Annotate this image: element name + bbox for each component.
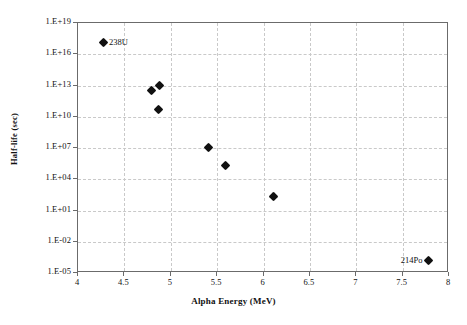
x-axis-tick xyxy=(355,272,356,276)
y-axis-tick-label: 1.E+13 xyxy=(15,80,71,89)
x-axis-tick-label: 5.5 xyxy=(196,277,236,287)
gridline-vertical xyxy=(171,23,172,271)
y-axis-tick xyxy=(73,85,77,86)
y-axis-tick xyxy=(73,22,77,23)
y-axis-tick-label: 1.E+07 xyxy=(15,142,71,151)
x-axis-tick-label: 7.5 xyxy=(382,277,422,287)
gridline-vertical xyxy=(310,23,311,271)
x-axis-title: Alpha Energy (MeV) xyxy=(0,296,467,306)
x-axis-tick xyxy=(402,272,403,276)
x-axis-tick-label: 8 xyxy=(428,277,467,287)
y-axis-tick-label: 1.E+04 xyxy=(15,173,71,182)
gridline-horizontal xyxy=(78,148,447,149)
gridline-vertical xyxy=(264,23,265,271)
y-axis-tick xyxy=(73,241,77,242)
y-axis-tick-label: 1.E-02 xyxy=(15,236,71,245)
alpha-decay-scatter-chart: 238U214Po 1.E+191.E+161.E+131.E+101.E+07… xyxy=(0,0,467,325)
gridline-horizontal xyxy=(78,211,447,212)
gridline-vertical xyxy=(403,23,404,271)
x-axis-tick xyxy=(170,272,171,276)
y-axis-tick xyxy=(73,147,77,148)
gridline-vertical xyxy=(124,23,125,271)
x-axis-tick xyxy=(448,272,449,276)
gridline-horizontal xyxy=(78,54,447,55)
data-point-marker xyxy=(98,37,108,47)
gridline-horizontal xyxy=(78,179,447,180)
x-axis-tick xyxy=(77,272,78,276)
x-axis-tick-label: 7 xyxy=(335,277,375,287)
y-axis-tick-label: 1.E+10 xyxy=(15,111,71,120)
gridline-vertical xyxy=(217,23,218,271)
x-axis-tick xyxy=(123,272,124,276)
data-point-marker xyxy=(154,104,164,114)
x-axis-tick xyxy=(216,272,217,276)
gridline-horizontal xyxy=(78,242,447,243)
y-axis-tick xyxy=(73,116,77,117)
y-axis-tick-label: 1.E+19 xyxy=(15,17,71,26)
x-axis-tick-label: 5 xyxy=(150,277,190,287)
y-axis-tick-label: 1.E+16 xyxy=(15,48,71,57)
x-axis-tick-label: 6 xyxy=(243,277,283,287)
y-axis-tick xyxy=(73,210,77,211)
data-point-label: 214Po xyxy=(423,256,445,265)
gridline-horizontal xyxy=(78,86,447,87)
y-axis-tick xyxy=(73,53,77,54)
y-axis-tick-label: 1.E-05 xyxy=(15,267,71,276)
x-axis-tick-label: 4.5 xyxy=(103,277,143,287)
x-axis-tick xyxy=(309,272,310,276)
data-point-marker xyxy=(221,161,231,171)
data-point-marker xyxy=(204,142,214,152)
y-axis-tick-label: 1.E+01 xyxy=(15,205,71,214)
data-point-label: 238U xyxy=(109,38,128,47)
plot-area: 238U214Po xyxy=(77,22,448,272)
data-point-marker xyxy=(269,192,279,202)
data-point-marker xyxy=(146,86,156,96)
y-axis-tick xyxy=(73,178,77,179)
gridline-horizontal xyxy=(78,117,447,118)
x-axis-tick-label: 6.5 xyxy=(289,277,329,287)
x-axis-tick-label: 4 xyxy=(57,277,97,287)
x-axis-tick xyxy=(263,272,264,276)
data-point-marker xyxy=(155,81,165,91)
gridline-vertical xyxy=(356,23,357,271)
y-axis-title: Half-life (sec) xyxy=(9,79,19,199)
